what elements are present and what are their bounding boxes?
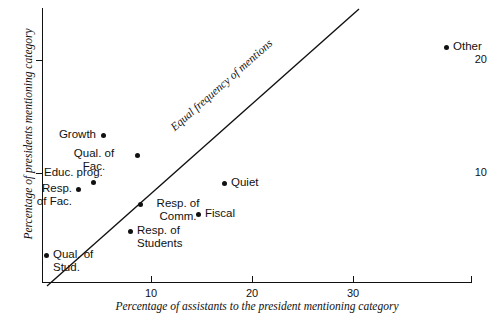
point-growth xyxy=(101,133,106,138)
point-label-other: Other xyxy=(453,40,482,53)
point-fiscal xyxy=(196,212,201,217)
point-qual-of-fac xyxy=(135,153,140,158)
point-label-educ-prog: Educ. prog. xyxy=(44,166,103,179)
scatter-plot-figure: 20 10 10 20 30 Percentage of presidents … xyxy=(0,0,487,316)
point-label-qual-of-stud: Qual. of Stud. xyxy=(53,248,93,273)
point-label-resp-of-comm: Resp. of Comm. xyxy=(146,197,210,222)
point-resp-of-comm xyxy=(138,202,143,207)
point-quiet xyxy=(222,181,227,186)
point-label-growth: Growth xyxy=(16,128,96,141)
plot-area: Equal frequency of mentions Other Growth… xyxy=(0,0,487,316)
point-label-resp-of-students: Resp. of Students xyxy=(137,224,182,249)
point-label-fiscal: Fiscal xyxy=(205,207,235,220)
point-other xyxy=(444,45,449,50)
point-resp-of-students xyxy=(128,229,133,234)
point-resp-of-fac xyxy=(76,187,81,192)
point-qual-of-stud xyxy=(44,253,49,258)
point-educ-prog xyxy=(91,180,96,185)
point-label-resp-of-fac: Resp. of Fac. xyxy=(0,182,72,207)
point-label-quiet: Quiet xyxy=(231,176,259,189)
